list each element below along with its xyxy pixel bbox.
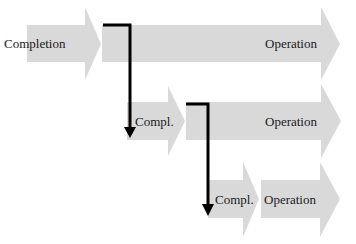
row-3: Compl. Operation (208, 162, 340, 237)
completion-label-2: Compl. (135, 114, 174, 129)
operation-label-3: Operation (264, 192, 316, 207)
row-2: Compl. Operation (127, 84, 341, 158)
row-1: Completion Operation (4, 7, 340, 80)
operation-label-2: Operation (265, 114, 317, 129)
operation-label-1: Operation (265, 36, 317, 51)
well-lifecycle-diagram: Completion Operation Compl. Operation Co… (0, 0, 356, 244)
completion-label-1: Completion (4, 36, 66, 51)
completion-label-3: Compl. (215, 192, 254, 207)
